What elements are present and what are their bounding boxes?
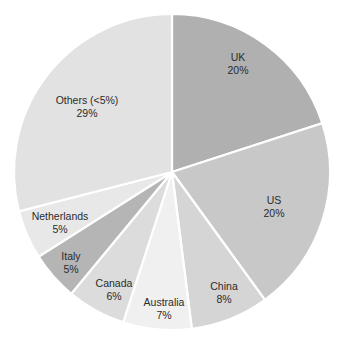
pie-chart-svg <box>0 0 343 342</box>
pie-chart-container: UK20%US20%China8%Australia7%Canada6%Ital… <box>0 0 343 342</box>
pie-slices-group <box>14 14 330 330</box>
